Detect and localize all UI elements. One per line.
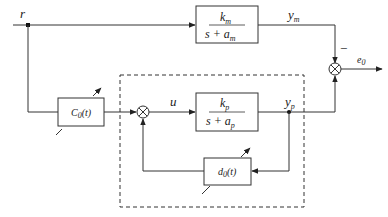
reference-model-block: km s + am xyxy=(196,6,258,43)
plant-output-label: yp xyxy=(283,94,295,111)
plant-output-line xyxy=(258,76,335,112)
model-output-signal: ym − xyxy=(258,7,347,63)
plant-block: kp s + ap xyxy=(196,93,258,131)
control-label: u xyxy=(170,94,177,109)
feedback-to-summer-line xyxy=(143,119,204,171)
feedforward-gain-block: C0(t) xyxy=(56,88,104,136)
reference-label: r xyxy=(20,6,26,21)
output-summing-junction xyxy=(329,63,341,75)
minus-sign: − xyxy=(340,41,347,56)
adjustable-arrow-icon xyxy=(93,88,101,96)
plant-denominator: s + ap xyxy=(206,114,235,130)
reference-signal: r xyxy=(13,6,195,112)
reference-to-c0-line xyxy=(28,25,58,112)
feedback-gain-block: d0(t) xyxy=(202,148,251,194)
inner-summing-junction xyxy=(137,106,149,118)
error-label: e0 xyxy=(357,54,365,67)
adjustable-arrow-icon xyxy=(241,148,250,157)
adjustable-arrow-tail xyxy=(202,186,210,194)
model-output-line xyxy=(258,25,335,63)
model-output-label: ym xyxy=(286,7,300,24)
block-diagram: r km s + am ym − e0 C0(t) u xyxy=(0,0,388,217)
adjustable-arrow-tail xyxy=(56,129,62,135)
